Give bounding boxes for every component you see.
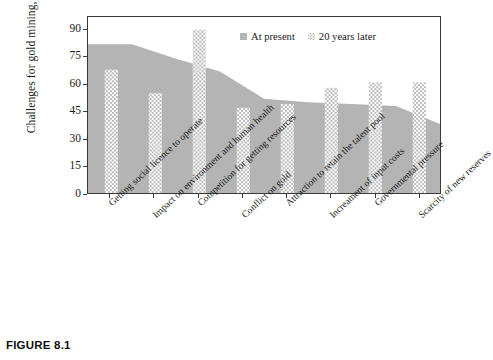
legend-entry: 20 years later bbox=[308, 31, 376, 42]
bar-20-years-later bbox=[149, 93, 162, 193]
legend-label: At present bbox=[251, 31, 295, 42]
y-axis-title: Challenges for gold mining, % bbox=[25, 0, 43, 151]
y-axis-tick-label: 60 bbox=[59, 78, 81, 90]
y-axis-tick-label: 15 bbox=[59, 160, 81, 172]
x-axis-tick-labels: Getting social licence to operateImpact … bbox=[0, 194, 457, 324]
legend-label: 20 years later bbox=[319, 31, 376, 42]
y-axis-tick-labels: 0153045607590 bbox=[57, 16, 81, 194]
bar-20-years-later bbox=[105, 70, 118, 193]
chart-legend: At present20 years later bbox=[240, 31, 376, 42]
y-axis-tick-label: 45 bbox=[59, 105, 81, 117]
y-axis-tick-label: 75 bbox=[59, 50, 81, 62]
bar-20-years-later bbox=[413, 82, 426, 193]
y-axis-tick-label: 30 bbox=[59, 133, 81, 145]
y-axis-tick-label: 90 bbox=[59, 23, 81, 35]
legend-dotted-swatch-icon bbox=[308, 33, 315, 40]
legend-entry: At present bbox=[240, 31, 295, 42]
legend-solid-swatch-icon bbox=[240, 33, 247, 40]
bar-20-years-later bbox=[325, 88, 338, 193]
figure-caption: FIGURE 8.1 bbox=[6, 339, 71, 351]
